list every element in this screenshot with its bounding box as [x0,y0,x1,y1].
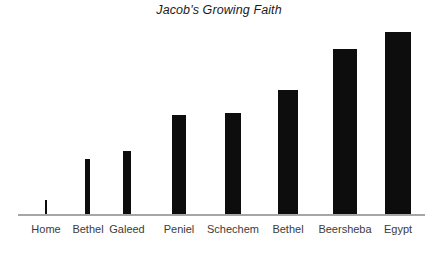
bar [45,200,47,214]
bar [172,115,186,214]
x-axis-line [18,214,425,216]
bar [278,90,298,214]
x-axis-label: Beersheba [318,221,371,237]
x-axis-label: Schechem [207,221,259,237]
bar [85,159,90,214]
bar [385,32,411,214]
x-axis-label: Peniel [164,221,195,237]
bar [333,49,357,214]
x-axis-label: Galeed [109,221,144,237]
x-axis-label: Bethel [272,221,303,237]
x-axis-label: Home [31,221,60,237]
x-axis-label: Egypt [384,221,412,237]
plot-area: HomeBethelGaleedPenielSchechemBethelBeer… [0,0,438,216]
bar [123,151,131,214]
x-axis-tick-labels: HomeBethelGaleedPenielSchechemBethelBeer… [18,221,425,241]
bar [225,113,241,214]
x-axis-label: Bethel [72,221,103,237]
bar-chart: Jacob's Growing Faith HomeBethelGaleedPe… [0,0,438,255]
